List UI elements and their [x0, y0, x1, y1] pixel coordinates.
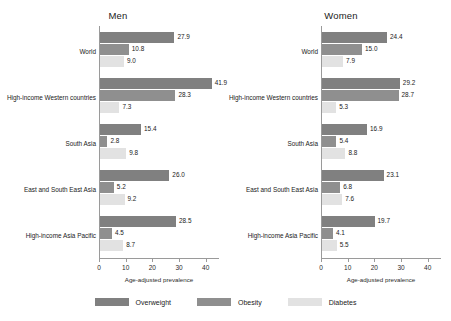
chart-legend: OverweightObesityDiabetes [0, 292, 451, 312]
legend-item[interactable]: Overweight [95, 298, 171, 306]
bar-overweight[interactable] [100, 216, 176, 227]
bar-diabetes[interactable] [100, 240, 123, 251]
legend-label: Diabetes [329, 299, 357, 306]
category-label: High-income Asia Pacific [26, 232, 96, 239]
bar-overweight[interactable] [322, 78, 400, 89]
legend-swatch-icon [197, 298, 231, 306]
category-label: South Asia [287, 140, 318, 147]
bar-overweight[interactable] [100, 32, 174, 43]
panel-women: Women Age-adjusted prevalence 010203040W… [223, 0, 451, 290]
bar-group: High-income Asia Pacific28.54.58.7 [99, 216, 219, 254]
bar-value-label: 5.3 [339, 103, 348, 110]
bar-obesity[interactable] [100, 90, 175, 101]
bar-obesity[interactable] [322, 136, 336, 147]
legend-swatch-icon [95, 298, 129, 306]
bar-diabetes[interactable] [100, 102, 119, 113]
bar-obesity[interactable] [100, 44, 129, 55]
bar-row: 5.5 [321, 240, 441, 251]
bar-row: 5.4 [321, 136, 441, 147]
bar-group: South Asia15.42.89.8 [99, 124, 219, 162]
plot-area-women: Age-adjusted prevalence 010203040World24… [321, 26, 441, 258]
bar-obesity[interactable] [100, 136, 107, 147]
bar-obesity[interactable] [100, 228, 112, 239]
bar-overweight[interactable] [322, 124, 367, 135]
bar-value-label: 24.4 [390, 33, 402, 40]
bar-row: 7.9 [321, 56, 441, 67]
bar-group: East and South East Asia23.16.87.6 [321, 170, 441, 208]
bar-row: 28.3 [99, 90, 219, 101]
x-axis-tick [126, 258, 127, 262]
x-axis-tick [374, 258, 375, 262]
bar-value-label: 2.8 [110, 137, 119, 144]
bar-value-label: 4.1 [336, 229, 345, 236]
bar-overweight[interactable] [322, 32, 387, 43]
bar-row: 8.8 [321, 148, 441, 159]
x-axis-tick-label: 30 [397, 264, 404, 271]
bar-obesity[interactable] [322, 182, 340, 193]
x-axis-title-men: Age-adjusted prevalence [99, 276, 219, 283]
bar-value-label: 8.7 [126, 241, 135, 248]
bar-diabetes[interactable] [100, 56, 124, 67]
bar-row: 19.7 [321, 216, 441, 227]
bar-value-label: 5.2 [117, 183, 126, 190]
bar-overweight[interactable] [100, 170, 169, 181]
x-axis-tick-label: 30 [175, 264, 182, 271]
bar-diabetes[interactable] [322, 102, 336, 113]
bar-diabetes[interactable] [322, 56, 343, 67]
bar-overweight[interactable] [100, 124, 141, 135]
bar-overweight[interactable] [100, 78, 212, 89]
legend-swatch-icon [288, 298, 322, 306]
bar-diabetes[interactable] [322, 148, 345, 159]
bar-overweight[interactable] [322, 170, 384, 181]
category-label: High-income Asia Pacific [248, 232, 318, 239]
bar-row: 5.2 [99, 182, 219, 193]
bar-value-label: 9.0 [127, 57, 136, 64]
legend-item[interactable]: Diabetes [288, 298, 357, 306]
x-axis-line [99, 258, 219, 259]
bar-value-label: 4.5 [115, 229, 124, 236]
bar-obesity[interactable] [100, 182, 114, 193]
x-axis-tick [152, 258, 153, 262]
x-axis-tick [321, 258, 322, 262]
category-label: High-income Western countries [229, 94, 318, 101]
x-axis-tick-label: 0 [319, 264, 323, 271]
x-axis-tick-label: 10 [344, 264, 351, 271]
bar-value-label: 5.4 [339, 137, 348, 144]
bar-row: 28.7 [321, 90, 441, 101]
bar-value-label: 15.0 [365, 45, 377, 52]
bar-overweight[interactable] [322, 216, 375, 227]
bar-row: 23.1 [321, 170, 441, 181]
bar-row: 29.2 [321, 78, 441, 89]
bar-row: 16.9 [321, 124, 441, 135]
bar-diabetes[interactable] [100, 148, 126, 159]
bar-diabetes[interactable] [322, 240, 337, 251]
bar-value-label: 27.9 [177, 33, 189, 40]
bar-diabetes[interactable] [322, 194, 342, 205]
category-label: High-income Western countries [7, 94, 96, 101]
bar-value-label: 7.9 [346, 57, 355, 64]
bar-obesity[interactable] [322, 90, 399, 101]
bar-value-label: 29.2 [403, 79, 415, 86]
x-axis-tick-label: 0 [97, 264, 101, 271]
bar-value-label: 26.0 [172, 171, 184, 178]
x-axis-tick [401, 258, 402, 262]
bar-obesity[interactable] [322, 228, 333, 239]
bar-value-label: 5.5 [340, 241, 349, 248]
category-label: World [301, 48, 318, 55]
bar-group: East and South East Asia26.05.29.2 [99, 170, 219, 208]
bar-group: High-income Western countries29.228.75.3 [321, 78, 441, 116]
bar-group: World27.910.89.0 [99, 32, 219, 70]
bar-obesity[interactable] [322, 44, 362, 55]
legend-item[interactable]: Obesity [197, 298, 262, 306]
bar-value-label: 9.8 [129, 149, 138, 156]
bar-group: High-income Western countries41.928.37.3 [99, 78, 219, 116]
x-axis-tick-label: 40 [202, 264, 209, 271]
x-axis-tick [348, 258, 349, 262]
bar-value-label: 28.5 [179, 217, 191, 224]
bar-row: 28.5 [99, 216, 219, 227]
bar-value-label: 28.7 [402, 91, 414, 98]
bar-row: 41.9 [99, 78, 219, 89]
bar-diabetes[interactable] [100, 194, 125, 205]
panel-title-women: Women [251, 10, 431, 21]
bar-row: 27.9 [99, 32, 219, 43]
